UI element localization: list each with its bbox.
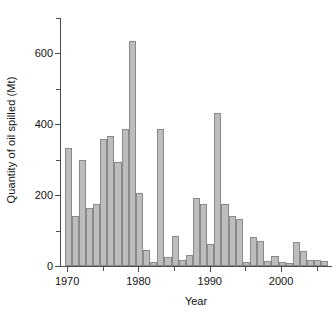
- bar-1979: [129, 41, 136, 266]
- bar-1999: [271, 256, 278, 266]
- bar-2003: [300, 251, 307, 266]
- bar-1998: [264, 261, 271, 266]
- bar-1994: [236, 219, 243, 266]
- plot-area: 0200400600 1970198019902000: [60, 18, 332, 266]
- oil-spill-bar-chart: Quantity of oil spilled (Mt) 0200400600 …: [0, 0, 336, 322]
- bar-1971: [72, 216, 79, 266]
- bar-1988: [193, 198, 200, 266]
- y-tick-label: 400: [35, 118, 53, 130]
- y-tick-minor: [56, 160, 60, 161]
- y-tick-major: [55, 266, 60, 267]
- bar-2002: [293, 242, 300, 266]
- bar-1977: [114, 162, 121, 267]
- x-tick-major: [67, 267, 68, 272]
- y-tick-label: 200: [35, 189, 53, 201]
- y-tick-major: [55, 195, 60, 196]
- bar-1992: [221, 204, 228, 266]
- x-axis-title: Year: [60, 295, 332, 307]
- bar-1975: [100, 139, 107, 266]
- bar-1985: [172, 236, 179, 266]
- bar-1997: [257, 241, 264, 267]
- bar-1973: [86, 208, 93, 266]
- x-tick-minor: [174, 267, 175, 271]
- y-axis-title: Quantity of oil spilled (Mt): [0, 0, 22, 280]
- bar-1989: [200, 204, 207, 266]
- y-tick-label: 0: [47, 260, 53, 272]
- y-tick-major: [55, 124, 60, 125]
- bar-1970: [65, 148, 72, 266]
- bar-1993: [229, 216, 236, 266]
- bar-1991: [214, 113, 221, 266]
- y-axis-title-text: Quantity of oil spilled (Mt): [5, 77, 17, 204]
- x-tick-major: [210, 267, 211, 272]
- bar-1978: [122, 129, 129, 266]
- bar-1987: [186, 255, 193, 266]
- bar-1972: [79, 160, 86, 266]
- y-tick-major: [55, 53, 60, 54]
- bar-2004: [307, 260, 314, 266]
- x-tick-major: [138, 267, 139, 272]
- x-tick-minor: [317, 267, 318, 271]
- bar-1976: [107, 136, 114, 266]
- bar-1995: [243, 262, 250, 266]
- x-tick-minor: [245, 267, 246, 271]
- bar-2006: [321, 261, 328, 266]
- bar-1984: [164, 257, 171, 266]
- bar-1982: [150, 262, 157, 266]
- bars-container: [61, 18, 332, 266]
- bar-1974: [93, 204, 100, 266]
- x-tick-major: [281, 267, 282, 272]
- bar-1981: [143, 250, 150, 266]
- bar-2000: [279, 262, 286, 266]
- bar-1980: [136, 193, 143, 266]
- x-axis-title-text: Year: [185, 295, 207, 307]
- x-tick-label: 2000: [269, 275, 293, 287]
- x-tick-label: 1970: [55, 275, 79, 287]
- bar-1996: [250, 237, 257, 266]
- y-tick-minor: [56, 231, 60, 232]
- y-tick-minor: [56, 18, 60, 19]
- y-tick-label: 600: [35, 47, 53, 59]
- bar-1990: [207, 244, 214, 266]
- x-tick-label: 1980: [126, 275, 150, 287]
- bar-1986: [179, 260, 186, 266]
- bar-2005: [314, 260, 321, 266]
- bar-1983: [157, 129, 164, 266]
- bar-2001: [286, 263, 293, 266]
- x-tick-label: 1990: [198, 275, 222, 287]
- x-tick-minor: [103, 267, 104, 271]
- x-axis-line: [60, 266, 332, 267]
- y-tick-minor: [56, 89, 60, 90]
